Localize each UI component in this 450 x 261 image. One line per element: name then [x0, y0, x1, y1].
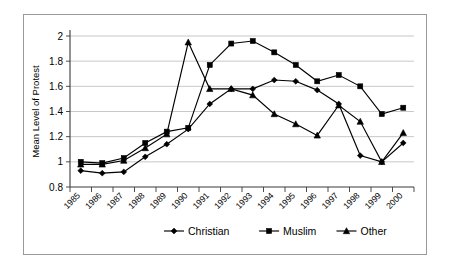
- y-axis-tick-labels: 0.811.21.41.61.82: [49, 31, 63, 193]
- x-tick-label: 1986: [83, 190, 104, 211]
- x-tick-label: 1997: [320, 190, 341, 211]
- y-tick-label: 1.2: [49, 131, 63, 142]
- data-point-marker-square: [315, 79, 320, 84]
- x-tick-label: 1998: [341, 190, 362, 211]
- gridlines: [70, 36, 414, 162]
- x-tick-label: 1991: [191, 190, 212, 211]
- data-point-marker-diamond: [271, 77, 277, 83]
- x-tick-label: 1989: [148, 190, 169, 211]
- data-point-marker-square: [401, 105, 406, 110]
- x-tick-label: 1990: [169, 190, 190, 211]
- x-tick-label: 1994: [255, 190, 276, 211]
- chart-legend: ChristianMuslimOther: [164, 225, 387, 237]
- x-tick-label: 1996: [298, 190, 319, 211]
- data-point-marker-square: [250, 39, 255, 44]
- x-tick-label: 1995: [277, 190, 298, 211]
- y-axis: [66, 30, 70, 187]
- chart-plot-area: 0.811.21.41.61.82 1985198619871988198919…: [24, 15, 428, 256]
- data-point-marker-square: [267, 229, 272, 234]
- legend-label: Christian: [188, 225, 230, 237]
- data-point-marker-triangle: [185, 39, 191, 45]
- data-point-marker-square: [272, 50, 277, 55]
- y-axis-title-text: Mean Level of Protest: [30, 65, 41, 158]
- series-line-muslim: [81, 41, 404, 163]
- data-point-marker-square: [336, 73, 341, 78]
- data-point-marker-diamond: [78, 168, 84, 174]
- data-point-marker-triangle: [293, 121, 299, 127]
- y-tick-label: 0.8: [49, 182, 63, 193]
- x-tick-label: 1993: [234, 190, 255, 211]
- x-tick-label: 1988: [126, 190, 147, 211]
- data-point-marker-diamond: [293, 78, 299, 84]
- legend-item-christian[interactable]: Christian: [164, 225, 230, 237]
- y-tick-label: 2: [57, 31, 63, 42]
- x-tick-label: 2000: [384, 190, 405, 211]
- y-tick-label: 1.4: [49, 106, 63, 117]
- data-point-marker-diamond: [171, 228, 177, 234]
- data-point-marker-square: [229, 41, 234, 46]
- y-tick-label: 1.6: [49, 81, 63, 92]
- y-tick-label: 1: [57, 156, 63, 167]
- legend-label: Muslim: [283, 225, 317, 237]
- x-axis-tick-labels: 1985198619871988198919901991199219931994…: [62, 190, 405, 211]
- data-point-marker-diamond: [357, 153, 363, 159]
- x-axis-tick-marks: [70, 187, 414, 192]
- chart-frame: 0.811.21.41.61.82 1985198619871988198919…: [23, 14, 427, 255]
- legend-label: Other: [361, 225, 388, 237]
- x-tick-label: 1985: [62, 190, 83, 211]
- y-tick-label: 1.8: [49, 56, 63, 67]
- x-tick-label: 1999: [363, 190, 384, 211]
- x-tick-label: 1992: [212, 190, 233, 211]
- data-point-marker-square: [358, 84, 363, 89]
- data-point-marker-square: [207, 62, 212, 67]
- data-series-layer: [78, 39, 407, 177]
- y-axis-title: Mean Level of Protest: [30, 65, 41, 158]
- x-tick-label: 1987: [105, 190, 126, 211]
- series-line-other: [81, 42, 404, 164]
- data-point-marker-diamond: [250, 86, 256, 92]
- data-point-marker-square: [186, 125, 191, 130]
- data-point-marker-square: [379, 112, 384, 117]
- legend-item-muslim[interactable]: Muslim: [259, 225, 317, 237]
- data-point-marker-diamond: [314, 87, 320, 93]
- line-chart: 0.811.21.41.61.82 1985198619871988198919…: [24, 15, 428, 256]
- data-point-marker-diamond: [99, 170, 105, 176]
- series-line-christian: [81, 80, 404, 173]
- data-point-marker-triangle: [400, 130, 406, 136]
- legend-item-other[interactable]: Other: [337, 225, 388, 237]
- data-point-marker-square: [293, 62, 298, 67]
